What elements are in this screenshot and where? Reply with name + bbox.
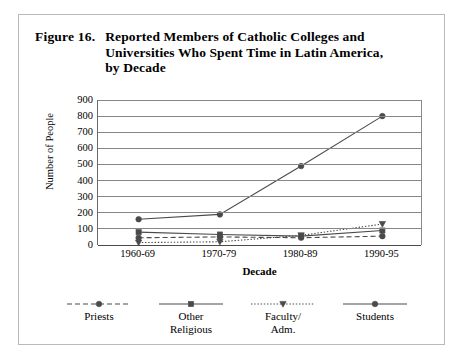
y-tick-label: 800 <box>77 111 93 121</box>
legend-item[interactable]: Students <box>329 296 421 335</box>
data-point-marker <box>188 301 193 306</box>
legend-swatch <box>63 296 135 308</box>
legend-swatch <box>247 296 319 308</box>
data-point-marker <box>372 301 378 307</box>
legend-label: Students <box>356 310 394 323</box>
y-tick-label: 0 <box>88 240 93 250</box>
gridline <box>98 100 421 101</box>
x-tick-label: 1990-95 <box>364 248 399 259</box>
legend-label: Faculty/ Adm. <box>265 310 301 335</box>
data-point-marker <box>379 221 385 227</box>
y-tick-label: 400 <box>77 176 93 186</box>
y-tick-label: 900 <box>77 95 93 105</box>
y-axis-ticks: 9008007006005004003002001000 <box>57 100 93 246</box>
legend-label: Other Religious <box>170 310 212 335</box>
series-line <box>139 231 383 237</box>
legend-item[interactable]: Other Religious <box>145 296 237 335</box>
gridline <box>98 132 421 133</box>
y-tick-label: 600 <box>77 143 93 153</box>
gridline <box>98 196 421 197</box>
gridline <box>98 212 421 213</box>
plot-box <box>97 100 422 245</box>
x-tick-label: 1970-79 <box>201 248 236 259</box>
y-tick-label: 100 <box>77 224 93 234</box>
gridline <box>98 116 421 117</box>
chart-area: Number of People 90080070060050040030020… <box>19 15 446 346</box>
gridline <box>98 228 421 229</box>
x-axis-label: Decade <box>97 265 422 277</box>
y-tick-label: 500 <box>77 159 93 169</box>
y-axis-label: Number of People <box>44 92 55 212</box>
data-point-marker <box>217 232 222 237</box>
figure-frame: Figure 16. Reported Members of Catholic … <box>18 14 445 345</box>
legend-item[interactable]: Faculty/ Adm. <box>237 296 329 335</box>
legend-label: Priests <box>84 310 113 323</box>
y-tick-label: 300 <box>77 192 93 202</box>
legend-item[interactable]: Priests <box>53 296 145 335</box>
x-axis-ticks: 1960-691970-791980-891990-95 <box>97 248 422 264</box>
data-point-marker <box>136 216 142 222</box>
gridline <box>98 245 421 246</box>
series-lines <box>98 100 423 245</box>
chart-legend: PriestsOther ReligiousFaculty/ Adm.Stude… <box>53 296 423 335</box>
gridline <box>98 180 421 181</box>
gridline <box>98 148 421 149</box>
gridline <box>98 164 421 165</box>
y-tick-label: 200 <box>77 208 93 218</box>
y-tick-label: 700 <box>77 127 93 137</box>
x-tick-label: 1980-89 <box>283 248 318 259</box>
x-tick-label: 1960-69 <box>120 248 155 259</box>
data-point-marker <box>380 233 386 239</box>
series-line <box>139 236 383 238</box>
legend-swatch <box>155 296 227 308</box>
data-point-marker <box>96 301 102 307</box>
legend-swatch <box>339 296 411 308</box>
data-point-marker <box>136 230 141 235</box>
